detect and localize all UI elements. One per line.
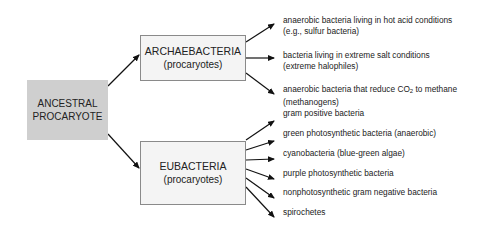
leaf-line: (methanogens) <box>283 97 457 108</box>
leaf-text: to methane <box>413 84 457 94</box>
archaebacteria-node: ARCHAEBACTERIA (procaryotes) <box>140 35 246 81</box>
node-label-line1: ANCESTRAL <box>37 97 97 110</box>
leaf-green-photosynthetic: green photosynthetic bacteria (anaerobic… <box>283 128 436 139</box>
leaf-line: anaerobic bacteria living in hot acid co… <box>283 15 452 26</box>
eubacteria-node: EUBACTERIA (procaryotes) <box>140 141 246 205</box>
leaf-line: (e.g., sulfur bacteria) <box>283 26 452 37</box>
leaf-text: anaerobic bacteria that reduce CO <box>283 84 410 94</box>
leaf-line: bacteria living in extreme salt conditio… <box>283 50 430 61</box>
leaf-gram-positive: gram positive bacteria <box>283 108 364 119</box>
leaf-cyanobacteria: cyanobacteria (blue-green algae) <box>283 148 405 159</box>
leaf-spirochetes: spirochetes <box>283 207 325 218</box>
ancestral-procaryote-node: ANCESTRAL PROCARYOTE <box>27 80 108 140</box>
arrow-root-to-archaebacteria <box>108 55 139 86</box>
leaf-line: (extreme halophiles) <box>283 61 430 72</box>
node-title: EUBACTERIA <box>159 159 226 173</box>
leaf-line: anaerobic bacteria that reduce CO2 to me… <box>283 84 457 97</box>
leaf-sulfur-bacteria: anaerobic bacteria living in hot acid co… <box>283 15 452 37</box>
arrow-root-to-eubacteria <box>108 134 139 168</box>
node-title: ARCHAEBACTERIA <box>145 44 241 58</box>
node-label-line2: PROCARYOTE <box>33 110 103 123</box>
leaf-extreme-halophiles: bacteria living in extreme salt conditio… <box>283 50 430 72</box>
node-subtitle: (procaryotes) <box>164 173 223 187</box>
leaf-purple-photosynthetic: purple photosynthetic bacteria <box>283 168 394 179</box>
leaf-nonphotosynthetic-gram-negative: nonphotosynthetic gram negative bacteria <box>283 187 437 198</box>
leaf-methanogens: anaerobic bacteria that reduce CO2 to me… <box>283 84 457 108</box>
node-subtitle: (procaryotes) <box>164 58 223 72</box>
